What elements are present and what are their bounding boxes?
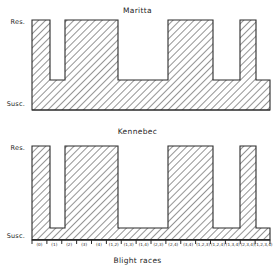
x-tick-label: (1)	[51, 242, 57, 247]
chart-panel-maritta: Maritta Res. Susc.	[0, 0, 275, 125]
x-tick-label: (2)	[66, 242, 72, 247]
x-tick-label: (3,4)	[183, 242, 193, 247]
x-tick-label: (1,2,3,4)	[255, 242, 273, 247]
x-tick-label: (1,3)	[124, 242, 134, 247]
x-tick-label: (1,2)	[109, 242, 119, 247]
x-tick-label: (1,2,4)	[211, 242, 225, 247]
panel-title-kennebec: Kennebec	[0, 127, 275, 136]
x-axis-tick-labels: (0) (1) (2) (3) (4) (1,2) (1,3) (1,4) (2…	[0, 242, 275, 254]
x-tick-label: (2,4)	[168, 242, 178, 247]
x-tick-label: (3)	[81, 242, 87, 247]
x-tick-label: (1,4)	[139, 242, 149, 247]
x-axis-title: Blight races	[0, 256, 275, 265]
y-axis-label-susc-top: Susc.	[1, 100, 25, 108]
x-tick-label: (2,3,4)	[241, 242, 255, 247]
kennebec-reaction-profile	[32, 146, 270, 240]
y-axis-label-res-bottom: Res.	[1, 144, 25, 152]
x-tick-label: (1,2,3)	[196, 242, 210, 247]
blight-races-figure: Maritta Res. Susc. Kennebec Res. Susc.	[0, 0, 275, 271]
chart-panel-kennebec: Kennebec Res. Susc.	[0, 125, 275, 245]
y-axis-label-susc-bottom: Susc.	[1, 232, 25, 240]
maritta-reaction-profile	[32, 20, 270, 110]
kennebec-step-plot	[28, 142, 273, 245]
x-tick-label: (4)	[96, 242, 102, 247]
y-axis-label-res-top: Res.	[1, 18, 25, 26]
x-tick-label: (2,3)	[153, 242, 163, 247]
x-tick-label: (0)	[36, 242, 42, 247]
panel-title-maritta: Maritta	[0, 6, 275, 15]
x-tick-label: (1,3,4)	[226, 242, 240, 247]
maritta-step-plot	[28, 16, 273, 114]
